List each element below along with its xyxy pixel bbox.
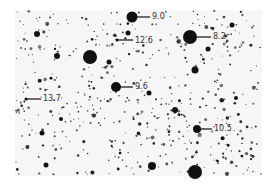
faint-star	[251, 127, 253, 129]
faint-star	[140, 144, 142, 146]
faint-star	[226, 149, 227, 150]
faint-star	[86, 41, 88, 43]
faint-star	[96, 112, 98, 114]
faint-star	[216, 19, 217, 20]
faint-star	[241, 143, 242, 144]
faint-star	[53, 14, 54, 15]
faint-star	[137, 132, 141, 136]
faint-star	[18, 112, 20, 114]
faint-star	[146, 138, 148, 140]
faint-star	[213, 172, 214, 173]
faint-star	[19, 21, 21, 23]
faint-star	[172, 163, 173, 164]
faint-star	[124, 111, 126, 113]
faint-star	[109, 98, 111, 100]
faint-star	[231, 150, 232, 151]
faint-star	[23, 108, 24, 109]
faint-star	[165, 11, 167, 13]
star-field	[0, 0, 273, 191]
bright-star	[54, 53, 60, 59]
faint-star	[217, 163, 219, 165]
faint-star	[241, 14, 243, 16]
faint-star	[118, 156, 120, 158]
faint-star	[54, 135, 56, 137]
faint-star	[218, 142, 220, 144]
faint-star	[61, 97, 62, 98]
faint-star	[223, 108, 226, 111]
faint-star	[68, 55, 69, 56]
faint-star	[250, 148, 253, 151]
faint-star	[87, 153, 88, 154]
faint-star	[104, 98, 105, 99]
faint-star	[147, 156, 148, 157]
magnitude-label: 13.7	[43, 95, 61, 103]
faint-star	[196, 141, 199, 144]
faint-star	[125, 81, 126, 82]
faint-star	[116, 23, 117, 24]
faint-star	[124, 37, 126, 39]
faint-star	[171, 161, 173, 163]
bright-star	[234, 96, 238, 100]
faint-star	[146, 122, 148, 124]
faint-star	[226, 116, 230, 120]
faint-star	[76, 129, 78, 131]
faint-star	[69, 141, 70, 142]
faint-star	[161, 144, 162, 145]
faint-star	[240, 155, 243, 158]
faint-star	[55, 45, 56, 46]
faint-star	[150, 58, 151, 59]
faint-star	[217, 88, 219, 90]
faint-star	[49, 17, 51, 19]
faint-star	[151, 112, 152, 113]
faint-star	[50, 77, 53, 80]
faint-star	[26, 40, 28, 42]
faint-star	[227, 46, 229, 48]
faint-star	[133, 173, 134, 174]
faint-star	[253, 25, 254, 26]
faint-star	[239, 120, 242, 123]
faint-star	[151, 23, 153, 25]
magnitude-label: 10.5	[214, 125, 232, 133]
faint-star	[137, 161, 139, 163]
faint-star	[42, 30, 45, 33]
faint-star	[168, 52, 169, 53]
faint-star	[87, 174, 88, 175]
faint-star	[185, 143, 186, 144]
faint-star	[116, 12, 117, 13]
faint-star	[160, 155, 162, 157]
faint-star	[138, 12, 140, 14]
faint-star	[133, 116, 135, 118]
faint-star	[91, 114, 92, 115]
faint-star	[178, 131, 180, 133]
faint-star	[250, 154, 253, 157]
faint-star	[158, 117, 159, 118]
faint-star	[135, 135, 137, 137]
faint-star	[195, 151, 198, 154]
faint-star	[213, 159, 214, 160]
faint-star	[178, 85, 179, 86]
faint-star	[52, 173, 54, 175]
bright-star	[40, 131, 45, 136]
faint-star	[221, 24, 223, 26]
faint-star	[170, 110, 172, 112]
faint-star	[190, 92, 191, 93]
faint-star	[241, 44, 243, 46]
faint-star	[24, 83, 27, 86]
faint-star	[152, 108, 153, 109]
faint-star	[225, 144, 226, 145]
faint-star	[135, 50, 137, 52]
faint-star	[37, 20, 38, 21]
faint-star	[154, 115, 156, 117]
faint-star	[17, 40, 18, 41]
faint-star	[28, 123, 30, 125]
faint-star	[54, 79, 56, 81]
faint-star	[107, 100, 109, 102]
faint-star	[59, 113, 60, 114]
faint-star	[89, 88, 91, 90]
faint-star	[128, 99, 130, 101]
faint-star	[159, 39, 162, 42]
faint-star	[38, 29, 39, 30]
faint-star	[217, 118, 218, 119]
faint-star	[259, 47, 261, 49]
faint-star	[251, 141, 253, 143]
